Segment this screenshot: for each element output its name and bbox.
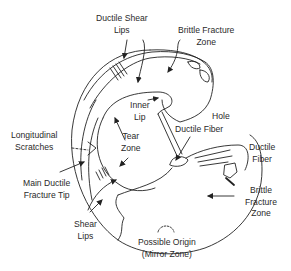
label-tear-zone: Tear Zone xyxy=(121,131,141,154)
brittle-hatch xyxy=(226,178,234,185)
fracture-tip-dashes xyxy=(72,148,88,150)
label-ductile-fiber-right: Ductile Fiber xyxy=(249,142,275,165)
leader-tear-zone-2 xyxy=(120,158,128,166)
label-inner-lip: Inner Lip xyxy=(130,100,150,123)
ductile-fiber-channel-1 xyxy=(158,114,178,158)
lower-scratch-1 xyxy=(96,172,100,180)
leader-ductile-shear-lips xyxy=(124,40,127,58)
label-shear-lips: Shear Lips xyxy=(74,219,97,242)
fracture-surface-diagram: Ductile Shear Lips Brittle Fracture Zone… xyxy=(0,0,291,271)
lower-scratch-2 xyxy=(99,170,103,178)
label-possible-origin: Possible Origin (Mirror Zone) xyxy=(138,237,196,260)
brittle-zone-lower-outline xyxy=(116,195,124,240)
hole-outline xyxy=(170,157,188,167)
specimen-outer-rim xyxy=(72,50,262,254)
ductile-fiber-box xyxy=(224,163,237,178)
shear-lip-band-4 xyxy=(89,118,98,200)
label-longitudinal-scratches: Longitudinal Scratches xyxy=(11,130,57,153)
label-main-ductile-fracture-tip: Main Ductile Fracture Tip xyxy=(23,178,70,201)
shear-lip-band-outer xyxy=(150,50,212,82)
label-hole: Hole xyxy=(212,111,230,123)
label-ductile-shear-lips: Ductile Shear Lips xyxy=(96,13,148,36)
brittle-zone-top-outline xyxy=(162,62,213,122)
fracture-blob-2 xyxy=(200,70,209,82)
label-brittle-fracture-zone-top: Brittle Fracture Zone xyxy=(178,25,234,48)
brittle-zone-lower-top xyxy=(118,168,172,195)
tear-zone-curve xyxy=(97,118,155,191)
label-ductile-fiber-center: Ductile Fiber xyxy=(175,124,223,136)
leader-shear-lips-1 xyxy=(88,180,116,210)
fracture-blob-1 xyxy=(188,61,200,69)
mirror-zone-origin xyxy=(158,226,174,232)
leader-main-ductile-tip xyxy=(60,162,84,172)
label-brittle-fracture-zone-right: Brittle Fracture Zone xyxy=(245,185,277,220)
longitudinal-scratch-1 xyxy=(110,68,118,80)
ductile-fiber-streak-2 xyxy=(198,156,232,162)
ductile-fiber-streak-3 xyxy=(200,162,228,166)
